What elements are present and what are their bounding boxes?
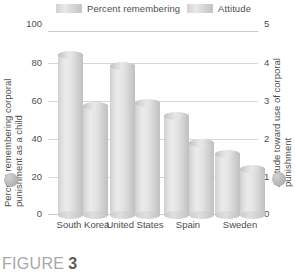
legend-item-percent-remembering: Percent remembering [56, 1, 180, 15]
right-axis-dot-icon [272, 172, 286, 186]
bar-percent-sweden [215, 154, 240, 215]
plot-area [48, 31, 258, 215]
figure-caption-number: 3 [68, 255, 77, 272]
left-axis-dot-icon [4, 173, 18, 187]
bar-group-sweden [215, 31, 269, 215]
category-label-sweden: Sweden [208, 219, 272, 231]
bar-group-united-states [110, 31, 164, 215]
legend-label-percent: Percent remembering [87, 3, 180, 14]
bar-percent-spain [164, 116, 189, 215]
figure-caption: FIGURE3 [2, 255, 77, 273]
left-tick-100: 100 [8, 19, 42, 29]
bar-attitude-sweden [240, 169, 265, 215]
category-axis: South Korea United States Spain Sweden [48, 219, 258, 249]
chart-legend: Percent remembering Attitude [48, 1, 278, 15]
bar-percent-south-korea [58, 55, 83, 215]
bar-attitude-united-states [135, 103, 160, 215]
legend-label-attitude: Attitude [218, 3, 251, 14]
legend-swatch-percent-icon [56, 4, 82, 13]
bar-percent-united-states [110, 66, 135, 215]
figure-container: Percent remembering Attitude 100 5 80 60… [0, 0, 295, 278]
legend-item-attitude: Attitude [187, 1, 251, 15]
legend-swatch-attitude-icon [187, 4, 213, 13]
bar-group-south-korea [58, 31, 112, 215]
right-tick-5: 5 [264, 19, 288, 29]
right-axis-title: Attitude toward use of corporal punishme… [271, 47, 293, 187]
left-tick-0: 0 [8, 209, 42, 219]
bar-attitude-south-korea [83, 106, 108, 215]
figure-caption-word: FIGURE [2, 255, 64, 272]
bar-attitude-spain [189, 143, 214, 215]
bar-group-spain [164, 31, 218, 215]
